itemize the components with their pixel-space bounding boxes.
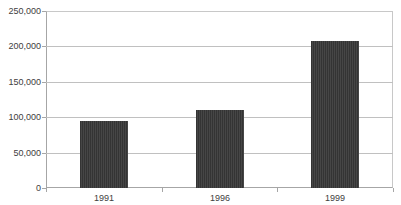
bar (196, 110, 244, 188)
y-axis-labels: 250,000200,000150,000100,00050,0000 (0, 11, 41, 188)
x-axis-labels: 199119961999 (46, 188, 393, 205)
x-axis-tick-mark (393, 188, 394, 192)
bar (311, 41, 359, 188)
bar (80, 121, 128, 188)
y-axis-tick-label: 0 (0, 184, 41, 193)
x-axis-tick-mark (277, 188, 278, 192)
y-axis-tick-label: 50,000 (0, 149, 41, 158)
y-axis-tick-label: 250,000 (0, 7, 41, 16)
y-axis-tick-label: 100,000 (0, 113, 41, 122)
x-axis-tick-label: 1991 (94, 194, 114, 203)
bar-chart: 250,000200,000150,000100,00050,0000 1991… (0, 0, 401, 205)
x-axis-tick-mark (162, 188, 163, 192)
y-axis-tick-label: 200,000 (0, 42, 41, 51)
x-axis-tick-mark (46, 188, 47, 192)
bar-series (46, 11, 393, 188)
x-axis-tick-label: 1999 (325, 194, 345, 203)
x-axis-tick-label: 1996 (210, 194, 230, 203)
y-axis-tick-label: 150,000 (0, 78, 41, 87)
